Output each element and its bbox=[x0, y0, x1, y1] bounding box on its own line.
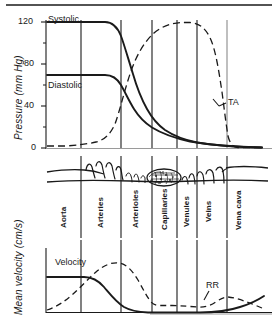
figure-root: Pressure (mm Hg) 120 80 40 0 Systolic Di… bbox=[0, 0, 279, 327]
pressure-tick-80: 80 bbox=[24, 59, 34, 68]
relative-resistance-label: RR bbox=[206, 281, 219, 290]
velocity-curve bbox=[47, 277, 264, 313]
segment-label-arteries: Arteries bbox=[97, 197, 105, 228]
relative-resistance-curve bbox=[47, 263, 262, 310]
pressure-tick-120: 120 bbox=[18, 17, 33, 26]
vessel-upper-wall bbox=[47, 170, 104, 174]
relative-resistance-leader bbox=[204, 291, 209, 300]
total-area-label: TA bbox=[228, 98, 239, 107]
velocity-axis-title: Mean velocity (cm/s) bbox=[14, 219, 24, 315]
venule-branches bbox=[182, 172, 204, 184]
segment-label-veins: Veins bbox=[205, 201, 213, 222]
segment-label-aorta: Aorta bbox=[60, 207, 68, 228]
velocity-panel bbox=[46, 240, 272, 314]
pressure-axis-title: Pressure (mm Hg) bbox=[14, 55, 24, 140]
segment-label-arterioles: Arterioles bbox=[132, 190, 140, 228]
vena-cava-wall bbox=[226, 167, 268, 169]
pressure-tick-0: 0 bbox=[31, 143, 36, 152]
segment-label-vena-cava: Vena cava bbox=[235, 190, 243, 230]
velocity-label: Velocity bbox=[55, 258, 86, 267]
pressure-y-axis bbox=[41, 20, 46, 149]
systolic-label: Systolic bbox=[48, 15, 79, 24]
circulation-figure-svg bbox=[0, 0, 279, 327]
segment-label-venules: Venules bbox=[183, 196, 191, 227]
diastolic-label: Diastolic bbox=[48, 81, 82, 90]
pressure-tick-40: 40 bbox=[24, 101, 34, 110]
segment-label-capillaries: Capillaries bbox=[161, 188, 169, 230]
segment-label-dividers bbox=[81, 232, 227, 238]
